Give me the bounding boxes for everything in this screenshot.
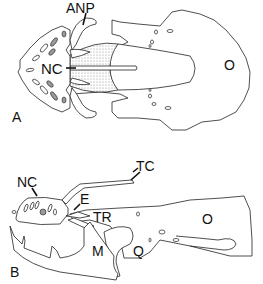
panel-b-skull (10, 168, 252, 280)
label-anp: ANP (66, 1, 95, 15)
taenia-bar (62, 180, 134, 204)
label-m: M (92, 244, 104, 258)
anatomical-drawing (0, 0, 263, 284)
label-tr: TR (93, 210, 112, 224)
label-q: Q (133, 244, 144, 258)
label-nc-lateral: NC (17, 175, 37, 189)
label-tc: TC (136, 159, 155, 173)
label-nc-dorsal: NC (41, 61, 63, 76)
panel-label-b: B (10, 265, 19, 279)
median-rod (70, 66, 137, 70)
label-otic-lateral: O (202, 212, 213, 226)
label-otic-dorsal: O (224, 58, 235, 72)
panel-label-a: A (12, 110, 21, 124)
label-e: E (80, 192, 89, 206)
